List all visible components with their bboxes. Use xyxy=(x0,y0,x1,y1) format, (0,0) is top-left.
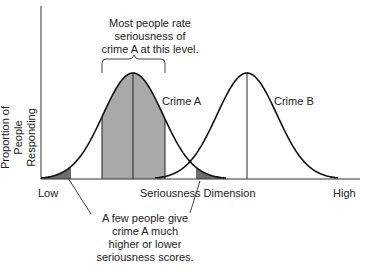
pointer-left xyxy=(68,178,91,214)
top-annotation-line: seriousness of xyxy=(84,30,216,43)
x-label-high: High xyxy=(333,187,356,200)
crime-a-label: Crime A xyxy=(162,95,201,108)
top-annotation: Most people rate seriousness of crime A … xyxy=(84,17,216,56)
top-annotation-line: crime A at this level. xyxy=(84,43,216,56)
bottom-annotation-line: crime A much xyxy=(82,225,208,238)
bottom-annotation-line: seriousness scores. xyxy=(82,251,208,264)
x-label-low: Low xyxy=(38,187,58,200)
y-axis-label-line: Responding xyxy=(25,88,38,188)
x-axis-title: Seriousness Dimension xyxy=(140,187,256,200)
top-annotation-line: Most people rate xyxy=(84,17,216,30)
y-axis-label-line: Proportion of People xyxy=(0,88,25,188)
bottom-annotation-line: A few people give xyxy=(82,212,208,225)
crime-b-label: Crime B xyxy=(274,95,314,108)
y-axis-label: Proportion of People Responding xyxy=(0,88,38,188)
bracket xyxy=(102,55,165,73)
bottom-annotation-line: higher or lower xyxy=(82,238,208,251)
bottom-annotation: A few people give crime A much higher or… xyxy=(82,212,208,264)
